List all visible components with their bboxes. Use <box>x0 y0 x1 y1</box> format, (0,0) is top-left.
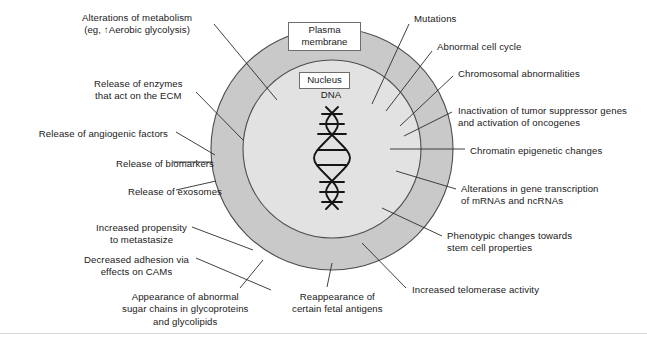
callout-label-mutations: Mutations <box>414 13 456 25</box>
callout-label-increased-telomerase-activity: Increased telomerase activity <box>412 284 539 296</box>
callout-label-release-of-biomarkers: Release of biomarkers <box>116 158 214 170</box>
callout-label-release-of-exosomes: Release of exosomes <box>128 186 222 198</box>
callout-label-phenotypic-changes-stem-cell: Phenotypic changes towards stem cell pro… <box>447 230 572 255</box>
leader-line-release-of-angiogenic-factors <box>176 132 215 155</box>
plasma-membrane-label: Plasma membrane <box>288 22 361 51</box>
callout-label-reappearance-of-fetal-antigens: Reappearance of certain fetal antigens <box>292 291 383 316</box>
callout-label-abnormal-sugar-chains: Appearance of abnormal sugar chains in g… <box>122 291 249 328</box>
cancer-cell-diagram: Plasma membrane Nucleus DNA Alterations … <box>0 0 647 338</box>
callout-label-chromosomal-abnormalities: Chromosomal abnormalities <box>458 68 580 80</box>
leader-line-decreased-adhesion-cams <box>196 258 271 290</box>
callout-label-chromatin-epigenetic-changes: Chromatin epigenetic changes <box>470 145 602 157</box>
callout-label-increased-propensity-to-metastasize: Increased propensity to metastasize <box>96 222 187 247</box>
callout-label-inactivation-tumor-suppressor-genes: Inactivation of tumor suppressor genes a… <box>458 105 627 130</box>
callout-label-release-of-enzymes-ecm: Release of enzymes that act on the ECM <box>94 78 183 103</box>
callout-label-abnormal-cell-cycle: Abnormal cell cycle <box>437 41 521 53</box>
dna-label: DNA <box>308 89 354 100</box>
callout-label-alterations-of-metabolism: Alterations of metabolism (eg, ↑Aerobic … <box>82 12 192 37</box>
leader-line-abnormal-sugar-chains <box>240 260 263 288</box>
callout-label-release-of-angiogenic-factors: Release of angiogenic factors <box>39 128 168 140</box>
callout-label-alterations-gene-transcription: Alterations in gene transcription of mRN… <box>461 183 599 208</box>
callout-label-decreased-adhesion-cams: Decreased adhesion via effects on CAMs <box>84 254 189 279</box>
figure-bottom-rule <box>0 333 647 334</box>
nucleus-label: Nucleus <box>299 72 350 89</box>
